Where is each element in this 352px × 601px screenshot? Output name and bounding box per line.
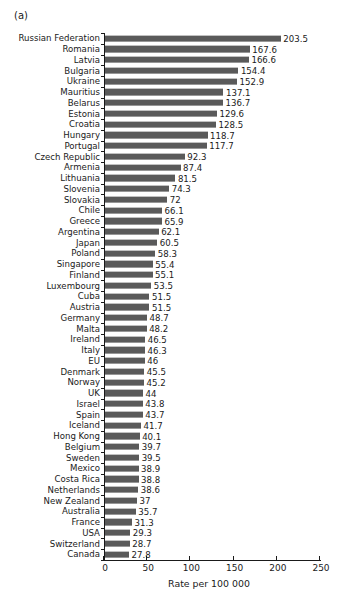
y-axis-tick (101, 55, 104, 56)
category-label: Finland (69, 270, 100, 280)
category-label: Malta (76, 324, 100, 334)
bar-and-value: 43.8 (105, 399, 164, 410)
bar (105, 530, 130, 536)
x-axis-tick-label: 250 (312, 563, 329, 574)
bar-and-value: 38.6 (105, 485, 160, 496)
x-axis-tick (103, 556, 104, 560)
category-label: Slovakia (64, 195, 100, 205)
bar-value-label: 51.5 (152, 291, 171, 301)
bar-value-label: 43.7 (145, 410, 164, 420)
bar-and-value: 37 (105, 495, 150, 506)
bar-and-value: 81.5 (105, 173, 197, 184)
category-label: Switzerland (50, 539, 100, 549)
bar-value-label: 136.7 (226, 98, 251, 108)
bar-row: Russian Federation203.5 (0, 33, 352, 44)
bar (105, 498, 137, 504)
bar-value-label: 37 (139, 496, 150, 506)
bar-row: Ireland46.5 (0, 334, 352, 345)
bar-row: Malta48.2 (0, 323, 352, 334)
bar-value-label: 55.4 (155, 259, 174, 269)
category-label: Spain (76, 410, 100, 420)
bar-and-value: 154.4 (105, 65, 266, 76)
bar (105, 315, 147, 321)
bar (105, 100, 223, 106)
bar-value-label: 55.1 (155, 270, 174, 280)
y-axis-tick (101, 98, 104, 99)
bar-value-label: 81.5 (178, 173, 197, 183)
y-axis-tick (101, 130, 104, 131)
category-label: Belgium (65, 442, 100, 452)
y-axis-tick (101, 549, 104, 550)
bar-value-label: 38.9 (141, 463, 160, 473)
category-label: Denmark (61, 367, 101, 377)
bar (105, 240, 157, 246)
bar (105, 35, 281, 41)
bar-and-value: 92.3 (105, 151, 206, 162)
bar-and-value: 41.7 (105, 420, 163, 431)
bar-and-value: 60.5 (105, 237, 179, 248)
bar-row: EU46 (0, 356, 352, 367)
y-axis-tick (101, 205, 104, 206)
bar-value-label: 38.8 (141, 474, 160, 484)
category-label: Canada (67, 549, 100, 559)
y-axis-tick (101, 409, 104, 410)
category-label: New Zealand (44, 496, 100, 506)
bar (105, 347, 145, 353)
y-axis-tick (101, 399, 104, 400)
bar-row: Slovakia72 (0, 194, 352, 205)
bar (105, 508, 136, 514)
bar-value-label: 46 (147, 356, 158, 366)
bar-and-value: 38.8 (105, 474, 160, 485)
bar (105, 293, 149, 299)
bar-and-value: 40.1 (105, 431, 161, 442)
bar (105, 143, 207, 149)
bar-chart-figure: (a) Russian Federation203.5Romania167.6L… (0, 0, 352, 601)
x-axis-tick-label: 200 (269, 563, 286, 574)
y-axis-tick (101, 474, 104, 475)
bar-row: Romania167.6 (0, 44, 352, 55)
bar-row: Ukraine152.9 (0, 76, 352, 87)
bar-row: Slovenia74.3 (0, 184, 352, 195)
bar-row: Hungary118.7 (0, 130, 352, 141)
bar-row: UK44 (0, 388, 352, 399)
bar (105, 186, 169, 192)
y-axis-tick (101, 227, 104, 228)
bar-and-value: 43.7 (105, 409, 164, 420)
bar-and-value: 137.1 (105, 87, 251, 98)
bar-and-value: 44 (105, 388, 156, 399)
y-axis-tick (101, 356, 104, 357)
bar-row: Sweden39.5 (0, 452, 352, 463)
bar-value-label: 58.3 (158, 248, 177, 258)
y-axis-tick (101, 291, 104, 292)
bar-row: Canada27.8 (0, 549, 352, 560)
bar-and-value: 87.4 (105, 162, 202, 173)
category-label: Latvia (74, 55, 100, 65)
bar (105, 465, 139, 471)
bar-value-label: 154.4 (241, 66, 266, 76)
category-label: Cuba (78, 291, 100, 301)
category-label: Poland (71, 248, 100, 258)
bar-and-value: 46.3 (105, 345, 167, 356)
x-axis-tick-label: 100 (183, 563, 200, 574)
category-label: Luxembourg (46, 281, 100, 291)
y-axis-tick (101, 366, 104, 367)
x-axis-title-text: Rate per 100 000 (102, 578, 250, 589)
category-label: Czech Republic (35, 152, 100, 162)
bar-row: Belarus136.7 (0, 98, 352, 109)
y-axis-tick (101, 216, 104, 217)
category-label: Mauritius (60, 87, 100, 97)
bar-and-value: 48.7 (105, 313, 169, 324)
x-axis-tick-label: 0 (102, 563, 108, 574)
bar (105, 390, 143, 396)
bar (105, 78, 237, 84)
category-label: Estonia (68, 109, 100, 119)
y-axis-tick (101, 377, 104, 378)
category-label: France (71, 517, 100, 527)
bar (105, 519, 132, 525)
bar-row: Luxembourg53.5 (0, 280, 352, 291)
bar-value-label: 74.3 (172, 184, 191, 194)
y-axis-tick (101, 44, 104, 45)
bar-and-value: 55.1 (105, 270, 174, 281)
bar-value-label: 92.3 (187, 152, 206, 162)
bar-and-value: 51.5 (105, 291, 171, 302)
